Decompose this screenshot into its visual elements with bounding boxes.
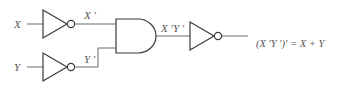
input-x-label: X <box>13 18 22 30</box>
inversion-bubble-icon <box>67 20 74 27</box>
not-gate-x <box>43 10 75 38</box>
output-expression: (X ′Y ′)′ = X + Y <box>256 38 325 50</box>
not-gate-output <box>190 22 222 50</box>
and-gate <box>116 19 156 53</box>
y-prime-wire <box>75 48 116 67</box>
inversion-bubble-icon <box>214 32 221 39</box>
and-output-label: X ′Y ′ <box>160 22 185 34</box>
x-prime-label: X ′ <box>83 9 96 21</box>
inversion-bubble-icon <box>67 63 74 70</box>
input-y-label: Y <box>14 61 22 73</box>
not-gate-y <box>43 53 75 81</box>
y-prime-label: Y ′ <box>84 53 96 65</box>
logic-circuit-diagram: X X ′ Y Y ′ X ′Y ′ (X ′Y ′)′ = X + Y <box>0 0 345 87</box>
